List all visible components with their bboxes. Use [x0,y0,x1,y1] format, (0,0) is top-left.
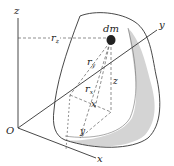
y-coordinate-label: y [80,127,85,136]
origin-label: O [6,126,14,136]
x-coordinate-label: x [91,100,96,109]
rx-label: rx [85,84,93,95]
rz-label-sub: z [56,37,59,44]
dm-label: dm [103,24,119,34]
ry-label: ry [87,57,95,68]
z-coordinate-label: z [113,77,118,86]
rx-label-sub: x [90,88,93,95]
body-shaded-edge [65,28,155,146]
rz-label: rz [50,33,60,44]
y-axis-label: y [159,20,165,30]
mass-element-point [107,35,116,45]
x-axis-label: x [97,154,103,164]
ry-label-sub: y [92,61,95,68]
z-axis-label: z [14,6,19,16]
